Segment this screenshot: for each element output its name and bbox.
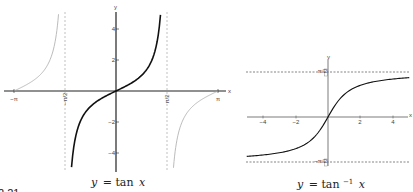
y-axis-label: y (114, 4, 117, 10)
y-axis-label: y (327, 54, 330, 60)
xtick-pi-half: π/2 (164, 94, 170, 104)
xtick-2: 2 (358, 119, 362, 125)
tan-caption: y = tan x (90, 176, 146, 189)
arctan-caption: y = tan −1 x (296, 174, 366, 191)
x-axis-label: x (228, 88, 231, 94)
figure-label: 2.21 (0, 187, 19, 192)
xtick-neg4: −4 (260, 119, 268, 125)
xtick-4: 4 (391, 119, 395, 125)
tan-right-branch-curve (173, 91, 218, 168)
tan-chart: x y 4 2 −2 −4 −π −π/2 π/2 π y = tan x (4, 4, 231, 189)
figure: x y 4 2 −2 −4 −π −π/2 π/2 π y = tan x 2.… (0, 0, 413, 192)
ytick-neg2: −2 (108, 119, 116, 125)
xtick-neg-pi-half: −π/2 (62, 92, 68, 105)
ytick-neg4: −4 (108, 150, 116, 156)
ytick-2: 2 (112, 57, 116, 63)
ytick-4: 4 (112, 26, 116, 32)
xtick-neg2: −2 (293, 119, 301, 125)
ytick-pi-half: π/2 (318, 68, 328, 74)
xtick-neg-pi: −π (10, 96, 18, 102)
x-axis-label: x (409, 112, 412, 118)
xtick-pi: π (216, 96, 220, 102)
arctan-chart: x y −4 −2 2 4 π/2 −π/2 y = tan −1 x (246, 54, 412, 191)
ytick-neg-pi-half: −π/2 (314, 158, 327, 164)
tan-left-branch-curve (14, 14, 59, 91)
